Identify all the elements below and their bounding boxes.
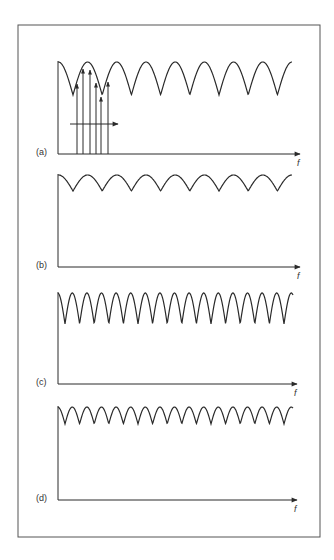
waveform <box>58 293 293 324</box>
panel-label-b: (b) <box>36 260 47 270</box>
panel-label-c: (c) <box>36 377 47 387</box>
waveform <box>58 407 293 424</box>
panel-c <box>58 292 297 384</box>
frequency-axis-label: f <box>294 388 297 398</box>
panel-b <box>58 174 300 267</box>
comb-filter-figure <box>0 0 334 560</box>
frequency-axis-label: f <box>297 158 300 168</box>
figure-frame <box>18 25 320 537</box>
waveform <box>58 62 292 95</box>
panel-label-a: (a) <box>36 147 47 157</box>
frequency-axis-label: f <box>294 504 297 514</box>
panel-d <box>58 406 297 500</box>
panel-a <box>58 61 300 154</box>
waveform <box>58 175 292 191</box>
frequency-axis-label: f <box>297 271 300 281</box>
panel-label-d: (d) <box>36 493 47 503</box>
